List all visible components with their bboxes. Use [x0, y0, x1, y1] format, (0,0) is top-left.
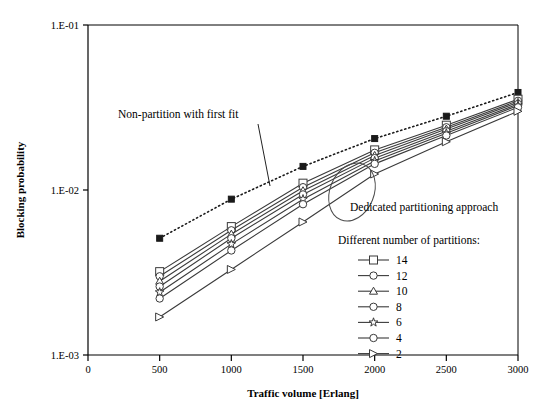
legend-label: 14 — [396, 254, 408, 266]
x-tick-label: 1000 — [221, 364, 242, 375]
marker-filled-square — [443, 113, 449, 119]
legend-label: 2 — [396, 348, 402, 360]
y-tick-label: 1.E-03 — [51, 350, 79, 361]
chart-canvas: 1.E-011.E-021.E-030500100015002000250030… — [0, 0, 555, 419]
marker-filled-square — [157, 235, 163, 241]
marker-circle — [156, 295, 163, 302]
x-tick-label: 3000 — [508, 364, 529, 375]
x-tick-label: 1500 — [293, 364, 314, 375]
marker-square — [370, 256, 378, 264]
legend-label: 6 — [396, 316, 402, 328]
x-tick-label: 2500 — [436, 364, 457, 375]
legend-label: 8 — [396, 301, 402, 313]
marker-filled-square — [515, 89, 521, 95]
marker-filled-square — [228, 196, 234, 202]
marker-circle — [370, 303, 377, 310]
y-axis-title: Blocking probability — [14, 141, 26, 238]
marker-circle — [371, 160, 378, 167]
annotation-non-partition: Non-partition with first fit — [118, 108, 239, 121]
x-tick-label: 0 — [85, 364, 90, 375]
marker-circle — [370, 334, 377, 341]
x-axis-title: Traffic volume [Erlang] — [247, 387, 359, 399]
chart-figure: 1.E-011.E-021.E-030500100015002000250030… — [0, 0, 555, 419]
y-tick-label: 1.E-02 — [51, 185, 79, 196]
x-tick-label: 500 — [152, 364, 168, 375]
legend-label: 4 — [396, 332, 402, 344]
marker-filled-square — [372, 136, 378, 142]
legend-title: Different number of partitions: — [338, 234, 480, 247]
marker-circle — [370, 272, 377, 279]
y-tick-label: 1.E-01 — [51, 20, 79, 31]
marker-circle — [299, 201, 306, 208]
legend-label: 12 — [396, 270, 408, 282]
marker-circle — [228, 247, 235, 254]
x-tick-label: 2000 — [364, 364, 385, 375]
legend-label: 10 — [396, 285, 408, 297]
marker-filled-square — [300, 163, 306, 169]
annotation-dedicated-partitioning: Dedicated partitioning approach — [350, 201, 498, 214]
